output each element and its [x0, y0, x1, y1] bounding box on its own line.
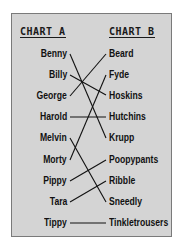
connection-line [70, 54, 106, 138]
connection-line [70, 75, 106, 95]
connection-lines [12, 14, 171, 236]
matching-chart-panel: CHART A CHART B Benny Billy George Harol… [11, 13, 172, 237]
connection-line [70, 54, 106, 96]
connection-line [70, 160, 106, 181]
